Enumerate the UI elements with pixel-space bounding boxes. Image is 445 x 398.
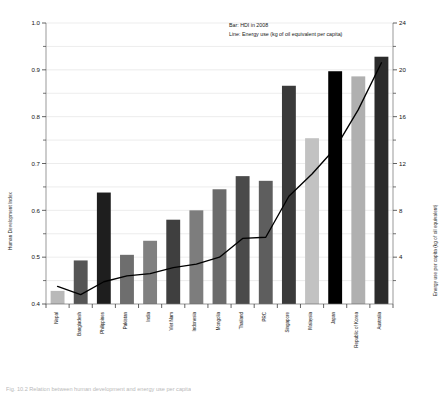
right-tick-label: 4 (399, 253, 403, 260)
bar-singapore (282, 86, 296, 304)
chart-legend: Bar: HDI in 2008 Line: Energy use (kg of… (229, 22, 343, 37)
figure-caption: Fig. 10.2 Relation between human develop… (6, 386, 191, 397)
chart-surface: 1.00.90.80.70.60.50.4 2420161284 NepalBa… (0, 0, 445, 372)
category-label-philippines: Philippines (100, 311, 105, 334)
bar-bangladesh (74, 260, 88, 304)
bar-indonesia (189, 210, 203, 304)
category-label-indonesia: Indonesia (192, 312, 197, 332)
left-tick-label: 0.4 (32, 300, 41, 307)
category-label-australia: Australia (377, 312, 382, 330)
legend-bar-entry: Bar: HDI in 2008 (229, 22, 268, 28)
category-label-viet-nam: Viet Nam (169, 312, 174, 331)
category-label-nepal: Nepal (54, 312, 59, 324)
bar-malaysia (305, 138, 319, 304)
hdi-energy-chart: 1.00.90.80.70.60.50.4 2420161284 NepalBa… (0, 0, 445, 372)
category-label-bangladesh: Bangladesh (77, 312, 82, 336)
category-label-japan: Japan (331, 312, 336, 325)
right-tick-label: 12 (399, 160, 406, 167)
bar-pakistan (120, 255, 134, 304)
bar-thailand (236, 176, 250, 304)
bar-philippines (97, 193, 111, 304)
category-label-pakistan: Pakistan (123, 312, 128, 330)
left-tick-label: 0.5 (32, 253, 41, 260)
category-label-prc: PRC (262, 311, 267, 321)
bar-mongolia (213, 189, 227, 304)
bar-prc (259, 181, 273, 304)
figure-container: 1.00.90.80.70.60.50.4 2420161284 NepalBa… (0, 0, 445, 398)
category-label-singapore: Singapore (285, 312, 290, 333)
bar-viet-nam (166, 220, 180, 304)
right-tick-label: 20 (399, 66, 406, 73)
legend-line-entry: Line: Energy use (kg of oil equivalent p… (229, 31, 343, 37)
category-label-thailand: Thailand (239, 312, 244, 330)
category-label-mongolia: Mongolia (216, 312, 221, 331)
category-label-malaysia: Malaysia (308, 312, 313, 330)
right-axis-ticks: 2420161284 (393, 19, 406, 280)
category-label-republic-of-korea: Republic of Korea (354, 312, 359, 348)
bar-australia (374, 57, 388, 304)
left-tick-label: 0.7 (32, 160, 41, 167)
left-tick-label: 0.6 (32, 207, 41, 214)
category-labels-group: NepalBangladeshPhilippinesPakistanIndiaV… (54, 311, 383, 348)
right-tick-label: 8 (399, 207, 403, 214)
left-tick-label: 0.9 (32, 66, 41, 73)
right-tick-label: 24 (399, 19, 406, 26)
right-tick-label: 16 (399, 113, 406, 120)
bar-nepal (51, 291, 65, 304)
left-tick-label: 1.0 (32, 19, 41, 26)
bar-japan (328, 71, 342, 304)
category-axis-ticks (46, 304, 393, 308)
left-axis-title: Human Development Index (8, 191, 13, 250)
category-label-india: India (146, 312, 151, 322)
left-axis-ticks: 1.00.90.80.70.60.50.4 (32, 19, 46, 307)
right-axis-title: Energy use per capita (kg of oil equival… (433, 204, 438, 296)
bars-group (51, 57, 389, 304)
left-tick-label: 0.8 (32, 113, 41, 120)
